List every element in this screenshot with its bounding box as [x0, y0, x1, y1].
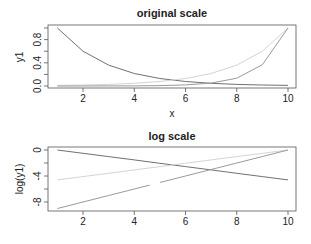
x-tick-label: 2 [80, 216, 86, 227]
figure: original scale 246810 0.00.40.8 x y1 log… [0, 0, 311, 244]
x-tick-label: 6 [183, 93, 189, 104]
y-axis-label: log(y1) [14, 164, 25, 195]
y-axis: 0-4-8 [32, 147, 48, 207]
series-line-exponential [57, 28, 288, 86]
y-tick-label: -8 [32, 197, 43, 206]
x-tick-label: 8 [234, 216, 240, 227]
y-axis: 0.00.40.8 [32, 28, 48, 93]
series-line-increasing [57, 28, 288, 85]
plot-lines [57, 150, 288, 209]
series-line-exponential [57, 185, 149, 208]
x-axis-label: x [170, 108, 175, 119]
y-tick-label: 0.4 [32, 55, 43, 69]
y-tick-label: -4 [32, 171, 43, 180]
x-tick-label: 4 [131, 93, 137, 104]
x-axis: 246810 [80, 211, 294, 227]
x-axis: 246810 [80, 88, 294, 104]
panel-title: log scale [148, 130, 195, 142]
x-tick-label: 10 [282, 216, 294, 227]
y-tick-label: 0 [32, 147, 43, 153]
x-tick-label: 2 [80, 93, 86, 104]
x-tick-label: 10 [282, 93, 294, 104]
y-tick-label: 0.0 [32, 79, 43, 93]
y-axis-label: y1 [14, 51, 25, 62]
x-tick-label: 8 [234, 93, 240, 104]
panel-title: original scale [137, 7, 207, 19]
x-tick-label: 4 [131, 216, 137, 227]
x-tick-label: 6 [183, 216, 189, 227]
panel-original-scale: original scale 246810 0.00.40.8 x y1 [14, 7, 296, 119]
panel-log-scale: log scale 246810 0-4-8 log(y1) [14, 130, 296, 227]
chart-canvas: original scale 246810 0.00.40.8 x y1 log… [0, 0, 311, 244]
series-line-decreasing [57, 28, 288, 85]
y-tick-label: 0.8 [32, 32, 43, 46]
plot-frame [48, 25, 296, 88]
plot-lines [57, 28, 288, 86]
